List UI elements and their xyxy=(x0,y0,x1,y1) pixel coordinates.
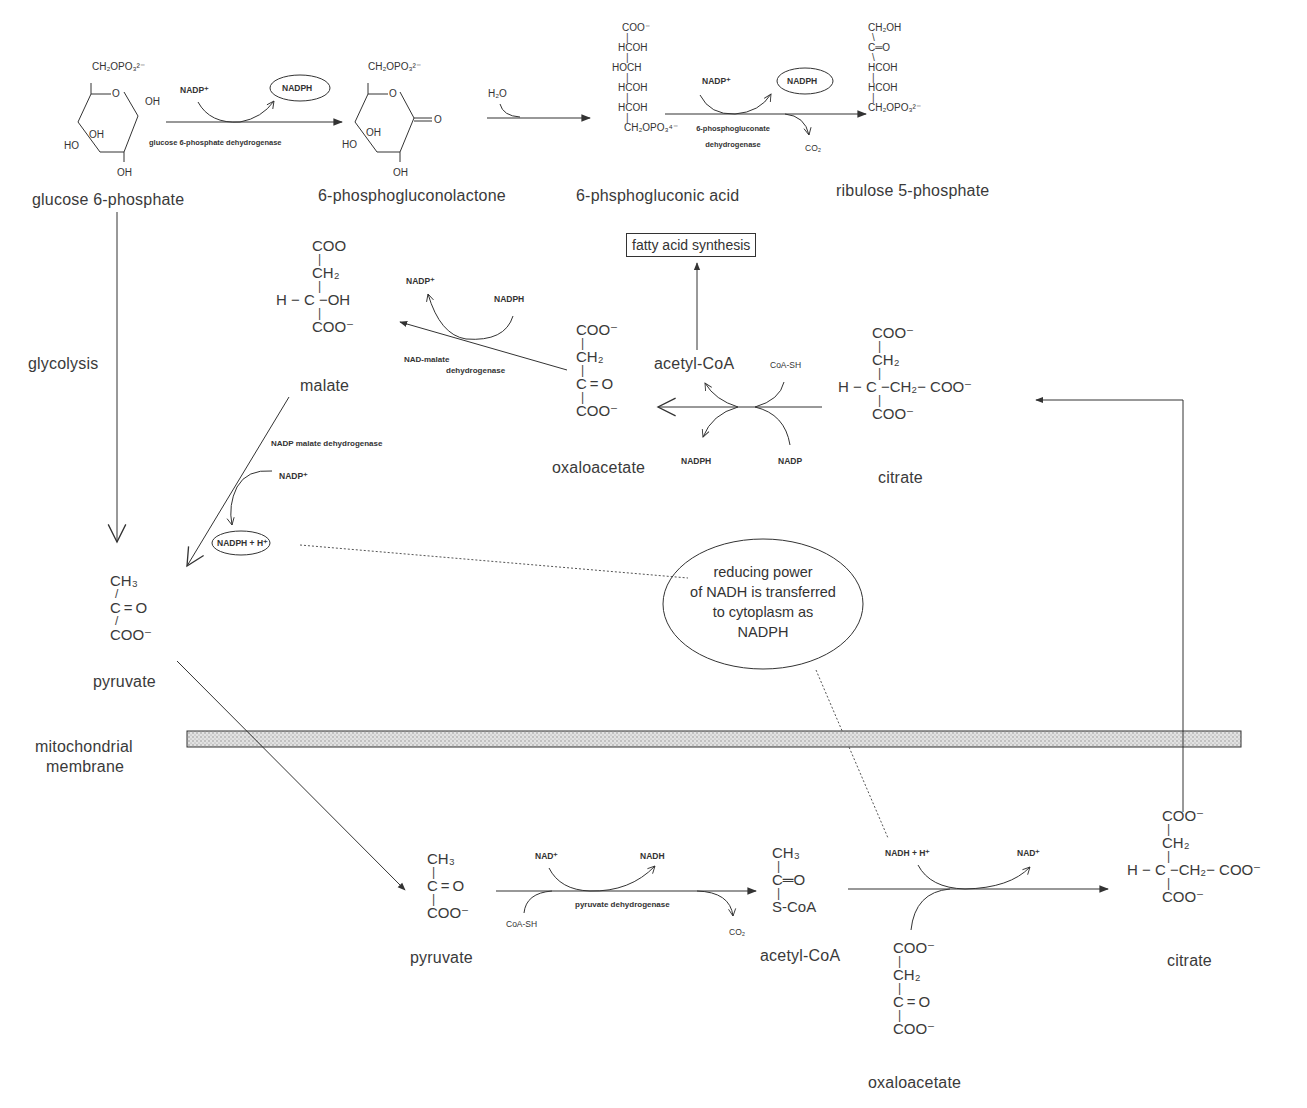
g6p-phosphate-group: CH₂OPO₃²⁻ xyxy=(92,62,145,72)
cs-nadh-in: NADH + H⁺ xyxy=(885,849,930,858)
cyto-citrate-structure: COO⁻ | CH₂ | H − C −CH₂− COO⁻ | COO⁻ xyxy=(838,325,972,421)
label-cyto-citrate: citrate xyxy=(878,470,923,486)
lactone-carbonyl-oxygen: O xyxy=(434,115,442,125)
g6p-ho: HO xyxy=(64,141,79,151)
label-membrane-line2: membrane xyxy=(46,759,124,775)
label-glycolysis: glycolysis xyxy=(28,356,98,372)
mito-oxaloacetate-structure: COO⁻ | CH₂ | C = O | COO⁻ xyxy=(893,940,935,1036)
label-cyto-oxaloacetate: oxaloacetate xyxy=(552,460,645,476)
enzyme-6pg-dehydrogenase-line2: dehydrogenase xyxy=(688,141,778,149)
label-mito-pyruvate: pyruvate xyxy=(410,950,473,966)
mito-pyruvate-structure: CH₃ | C = O | COO⁻ xyxy=(427,851,469,920)
g6p-oh-1: OH xyxy=(145,97,160,107)
g6p-ring xyxy=(78,83,138,162)
step3-co2-out: CO₂ xyxy=(805,144,821,153)
enzyme-6pg-dehydrogenase-line1: 6-phosphogluconate xyxy=(688,125,778,133)
nad-mdh-nadp-out: NADP⁺ xyxy=(406,277,435,286)
step2-water: H₂O xyxy=(488,89,507,99)
fatty-acid-synthesis-box: fatty acid synthesis xyxy=(626,233,756,257)
label-cyto-pyruvate: pyruvate xyxy=(93,674,156,690)
label-membrane-line1: mitochondrial xyxy=(35,739,133,755)
g6p-oh-3: OH xyxy=(117,168,132,178)
pathway-diagram: CH₂OPO₃²⁻ O OH OH HO OH glucose 6-phosph… xyxy=(0,0,1307,1108)
label-malate: malate xyxy=(300,378,349,394)
lactone-oh-2: OH xyxy=(393,168,408,178)
gluconic-acid-structure: COO⁻ | HCOH | HOCH | HCOH | HCOH | CH₂OP… xyxy=(610,23,678,133)
cyto-pyruvate-structure: CH₃ / C = O / COO⁻ xyxy=(110,573,152,642)
step1-nadp-in: NADP⁺ xyxy=(180,86,209,95)
label-mito-citrate: citrate xyxy=(1167,953,1212,969)
cyto-oxaloacetate-structure: COO⁻ | CH₂ | C = O | COO⁻ xyxy=(576,322,618,418)
pdh-coash-in: CoA-SH xyxy=(506,920,537,929)
nad-mdh-nadph-in: NADPH xyxy=(494,295,524,304)
label-mito-oxaloacetate: oxaloacetate xyxy=(868,1075,961,1091)
pdh-nad-in: NAD⁺ xyxy=(535,852,558,861)
malate-structure: COO | CH₂ | H − C −OH | COO⁻ xyxy=(276,238,354,334)
label-cyto-acetyl-coa: acetyl-CoA xyxy=(654,356,734,372)
enzyme-nadp-malate-dh: NADP malate dehydrogenase xyxy=(271,440,382,448)
ribulose-structure: CH₂OH \ C═O \ HCOH | HCOH | CH₂OPO₃²⁻ xyxy=(868,23,921,113)
lactone-phosphate-group: CH₂OPO₃²⁻ xyxy=(368,62,421,72)
nadp-mdh-nadp-in: NADP⁺ xyxy=(279,472,308,481)
pdh-co2-out: CO₂ xyxy=(729,928,745,937)
lyase-nadph-out: NADPH xyxy=(681,457,711,466)
step3-nadph-out: NADPH xyxy=(787,77,817,86)
g6p-oh-2: OH xyxy=(89,130,104,140)
pdh-nadh-out: NADH xyxy=(640,852,665,861)
enzyme-nad-malate-dh-line1: NAD-malate xyxy=(404,356,449,364)
label-glucose-6-phosphate: glucose 6-phosphate xyxy=(32,192,184,208)
enzyme-g6p-dehydrogenase: glucose 6-phosphate dehydrogenase xyxy=(149,139,282,147)
lyase-coash-in: CoA-SH xyxy=(770,361,801,370)
step1-nadph-out: NADPH xyxy=(282,84,312,93)
mito-citrate-structure: COO⁻ | CH₂ | H − C −CH₂− COO⁻ | COO⁻ xyxy=(1127,808,1261,904)
lactone-ho: HO xyxy=(342,140,357,150)
mito-acetyl-coa-structure: CH₃ | C═O | S-CoA xyxy=(772,845,816,914)
lyase-nadp-in: NADP xyxy=(778,457,802,466)
connector-lines xyxy=(0,0,1307,1108)
lactone-oh-1: OH xyxy=(366,128,381,138)
enzyme-pyruvate-dehydrogenase: pyruvate dehydrogenase xyxy=(575,901,670,909)
reducing-power-callout: reducing power of NADH is transferred to… xyxy=(663,562,863,642)
cs-nad-out: NAD⁺ xyxy=(1017,849,1040,858)
step3-nadp-in: NADP⁺ xyxy=(702,77,731,86)
nadp-mdh-nadph-out: NADPH + H⁺ xyxy=(217,539,268,548)
label-6-phosphogluconolactone: 6-phosphogluconolactone xyxy=(318,188,506,204)
enzyme-nad-malate-dh-line2: dehydrogenase xyxy=(446,367,505,375)
g6p-ring-oxygen: O xyxy=(112,89,120,99)
label-6-phosphogluconic-acid: 6-phsphogluconic acid xyxy=(576,188,739,204)
mitochondrial-membrane xyxy=(187,731,1241,747)
label-mito-acetyl-coa: acetyl-CoA xyxy=(760,948,840,964)
lactone-ring-oxygen: O xyxy=(389,89,397,99)
label-ribulose-5-phosphate: ribulose 5-phosphate xyxy=(836,183,989,199)
